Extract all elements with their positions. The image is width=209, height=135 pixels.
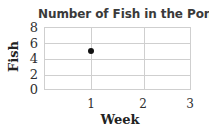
y-tick-label: 0: [26, 83, 42, 96]
gridline-horizontal: [45, 75, 190, 76]
gridline-horizontal: [45, 59, 190, 60]
y-tick-label: 6: [26, 37, 42, 50]
x-tick-label: 2: [135, 98, 151, 110]
plot-area: [44, 27, 191, 90]
x-axis-label: Week: [98, 112, 142, 127]
y-axis-label: Fish: [7, 42, 21, 72]
data-point: [88, 48, 94, 54]
y-tick-label: 8: [26, 21, 42, 34]
y-tick-label: 2: [26, 68, 42, 81]
gridline-vertical: [144, 28, 145, 89]
x-tick-label: 3: [182, 98, 198, 110]
gridline-vertical: [91, 28, 92, 89]
chart-title: Number of Fish in the Pond: [38, 7, 198, 21]
x-tick-label: 1: [83, 98, 99, 110]
gridline-horizontal: [45, 43, 190, 44]
y-tick-label: 4: [26, 52, 42, 65]
